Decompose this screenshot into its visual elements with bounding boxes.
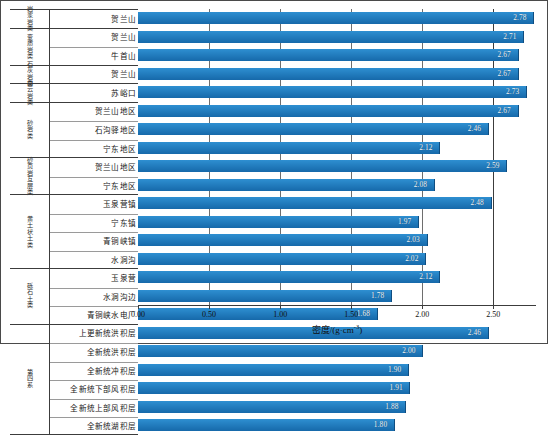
- site-label: 牛首山: [111, 52, 136, 61]
- table-row: 水洞沟: [50, 251, 138, 270]
- label-group: 岩浆岩类贺兰山: [10, 9, 138, 28]
- site-label: 上更新统洪积层: [79, 329, 136, 338]
- site-cell: 玉泉营镇宁东镇青铜峡镇水洞沟: [50, 195, 138, 268]
- x-tick: [280, 306, 281, 309]
- site-label: 水洞沟边: [103, 293, 136, 302]
- bar-row: 2.00: [138, 342, 536, 361]
- site-cell: 贺兰山牛首山: [50, 29, 138, 65]
- site-label: 全新统上部风积层: [70, 404, 136, 413]
- bar-row: 2.59: [138, 157, 536, 176]
- bar-value-label: 1.88: [385, 401, 398, 413]
- table-row: 玉泉营: [50, 269, 138, 288]
- table-row: 全新统上部风积层: [50, 399, 138, 418]
- bar-row: 1.90: [138, 361, 536, 380]
- x-tick-label: 2.50: [486, 310, 500, 319]
- x-tick-label: 2.00: [415, 310, 429, 319]
- site-label: 贺兰山地区: [95, 163, 136, 172]
- bar-value-label: 2.00: [402, 345, 415, 357]
- bar: [138, 271, 440, 283]
- table-row: 青铜峡镇: [50, 232, 138, 251]
- site-cell: 苏峪口: [50, 84, 138, 102]
- bar-value-label: 1.90: [388, 364, 401, 376]
- bar-series: 2.782.712.672.672.732.672.462.122.592.08…: [138, 9, 536, 305]
- bar: [138, 31, 524, 43]
- label-group: 砂岩类贺兰山地区石沟驿地区宁东地区: [10, 102, 138, 158]
- x-axis-title-tail: ): [359, 325, 362, 335]
- label-group: 黄土状土类玉泉营镇宁东镇青铜峡镇水洞沟: [10, 194, 138, 268]
- rock-type-cell: 岩浆岩类: [10, 10, 50, 28]
- bar: [138, 253, 426, 265]
- site-cell: 上更新统洪积层全新统洪积层全新统冲积层全新统下部风积层全新统上部风积层全新统湖积…: [50, 325, 138, 434]
- bar-value-label: 2.59: [486, 160, 499, 172]
- table-row: 石沟驿地区: [50, 121, 138, 140]
- bar-row: 2.08: [138, 176, 536, 195]
- x-tick: [209, 306, 210, 309]
- rock-type-label: 黄土状土类: [26, 216, 33, 248]
- bar: [138, 12, 534, 24]
- table-row: 全新统湖积层: [50, 417, 138, 436]
- bar-row: 1.88: [138, 398, 536, 417]
- site-label: 玉泉营: [111, 274, 136, 283]
- label-group: 第四系上更新统洪积层全新统洪积层全新统冲积层全新统下部风积层全新统上部风积层全新…: [10, 324, 138, 435]
- bar: [138, 49, 519, 61]
- bar: [138, 345, 423, 357]
- bar-row: 2.67: [138, 65, 536, 84]
- bar-value-label: 2.71: [503, 31, 516, 43]
- bar-value-label: 2.67: [498, 49, 511, 61]
- bar-value-label: 1.80: [374, 419, 387, 431]
- table-row: 贺兰山: [50, 10, 138, 29]
- bar-row: 2.67: [138, 102, 536, 121]
- rock-type-cell: 变质岩类: [10, 29, 50, 65]
- bar: [138, 179, 435, 191]
- bar: [138, 364, 409, 376]
- bar-row: 1.78: [138, 287, 536, 306]
- bar-row: 2.71: [138, 28, 536, 47]
- x-axis-title: 密度/(g·cm-3): [138, 323, 536, 336]
- site-label: 全新统冲积层: [87, 367, 136, 376]
- rock-type-cell: 砾石土类: [10, 269, 50, 324]
- bar: [138, 234, 428, 246]
- bar: [138, 216, 419, 228]
- x-tick-label: 1.00: [273, 310, 287, 319]
- bar: [138, 401, 406, 413]
- bar-row: 2.48: [138, 194, 536, 213]
- bar-value-label: 2.02: [405, 253, 418, 265]
- site-label: 全新统湖积层: [87, 422, 136, 431]
- rock-type-cell: 砂页岩互层类: [10, 158, 50, 194]
- bar-row: 1.91: [138, 379, 536, 398]
- bar-value-label: 2.12: [419, 271, 432, 283]
- bar-row: 2.03: [138, 231, 536, 250]
- row-label-table: 岩浆岩类贺兰山变质岩类贺兰山牛首山石灰岩类贺兰山白云岩类苏峪口砂岩类贺兰山地区石…: [10, 9, 138, 305]
- bar-row: 2.46: [138, 120, 536, 139]
- site-label: 玉泉营镇: [103, 200, 136, 209]
- site-cell: 贺兰山: [50, 10, 138, 28]
- label-group: 砂页岩互层类贺兰山地区宁东地区: [10, 157, 138, 194]
- site-label: 宁东地区: [103, 182, 136, 191]
- site-label: 青铜峡镇: [103, 237, 136, 246]
- site-label: 苏峪口: [111, 89, 136, 98]
- x-tick: [138, 306, 139, 309]
- bar-row: 2.67: [138, 46, 536, 65]
- rock-type-label: 砾石土类: [26, 283, 33, 309]
- table-row: 贺兰山: [50, 66, 138, 85]
- bar-row: 2.12: [138, 139, 536, 158]
- table-row: 全新统洪积层: [50, 343, 138, 362]
- site-cell: 贺兰山: [50, 66, 138, 84]
- rock-type-label: 变质岩类: [26, 34, 33, 60]
- bar-value-label: 2.78: [513, 12, 526, 24]
- bar: [138, 68, 519, 80]
- bar: [138, 160, 507, 172]
- bar-value-label: 2.73: [506, 86, 519, 98]
- site-label: 贺兰山: [111, 15, 136, 24]
- site-label: 宁东镇: [111, 219, 136, 228]
- bar-value-label: 2.08: [414, 179, 427, 191]
- table-row: 上更新统洪积层: [50, 325, 138, 344]
- x-tick: [493, 306, 494, 309]
- label-group: 变质岩类贺兰山牛首山: [10, 28, 138, 65]
- site-label: 青铜峡水电厂: [87, 311, 136, 320]
- bar-value-label: 2.46: [468, 123, 481, 135]
- site-cell: 玉泉营水洞沟边青铜峡水电厂: [50, 269, 138, 324]
- table-row: 宁东地区: [50, 140, 138, 159]
- bar: [138, 197, 492, 209]
- table-row: 宁东镇: [50, 214, 138, 233]
